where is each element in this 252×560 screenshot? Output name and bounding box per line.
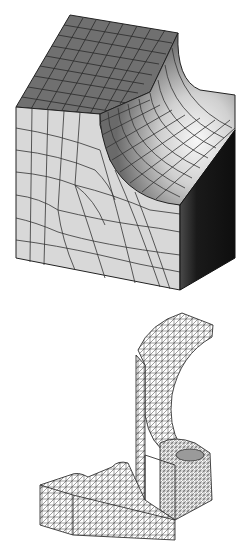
hex-mesh-cube-drawing <box>0 0 252 295</box>
hex-mesh-cube-figure <box>0 0 252 295</box>
bracket-mesh <box>40 313 213 540</box>
tet-mesh-bracket-drawing <box>0 295 252 560</box>
tet-mesh-bracket-figure <box>0 295 252 560</box>
